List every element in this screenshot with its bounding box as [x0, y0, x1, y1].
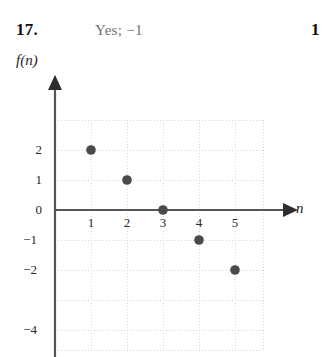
- y-axis-label: f(n): [16, 52, 38, 69]
- grid-vertical: [91, 120, 263, 350]
- x-tick-label: 2: [119, 215, 135, 231]
- x-tick-label: 5: [227, 215, 243, 231]
- grid-horizontal: [55, 120, 263, 350]
- x-tick-label: 3: [155, 215, 171, 231]
- figure-scatter-plot: f(n) n 2 1 0 −1 −2 −4 1 2 3 4 5: [0, 52, 325, 357]
- plot-canvas: [0, 52, 325, 357]
- x-axis-label: n: [296, 200, 304, 217]
- data-point: [158, 205, 168, 215]
- x-tick-label: 1: [83, 215, 99, 231]
- y-tick-label: −2: [15, 262, 37, 278]
- answer-line: 17. Yes; −1 1: [0, 0, 325, 52]
- answer-text: Yes; −1: [95, 22, 143, 39]
- y-tick-label: −1: [15, 232, 37, 248]
- x-tick-label: 4: [191, 215, 207, 231]
- y-tick-label: 0: [20, 202, 42, 218]
- data-point: [86, 145, 96, 155]
- item-number: 17.: [16, 20, 38, 40]
- next-item-number: 1: [311, 20, 325, 40]
- data-point: [194, 235, 204, 245]
- y-tick-label: 1: [20, 172, 42, 188]
- data-point: [230, 265, 240, 275]
- y-tick-label: 2: [20, 142, 42, 158]
- data-point: [122, 175, 132, 185]
- y-tick-label: −4: [15, 322, 37, 338]
